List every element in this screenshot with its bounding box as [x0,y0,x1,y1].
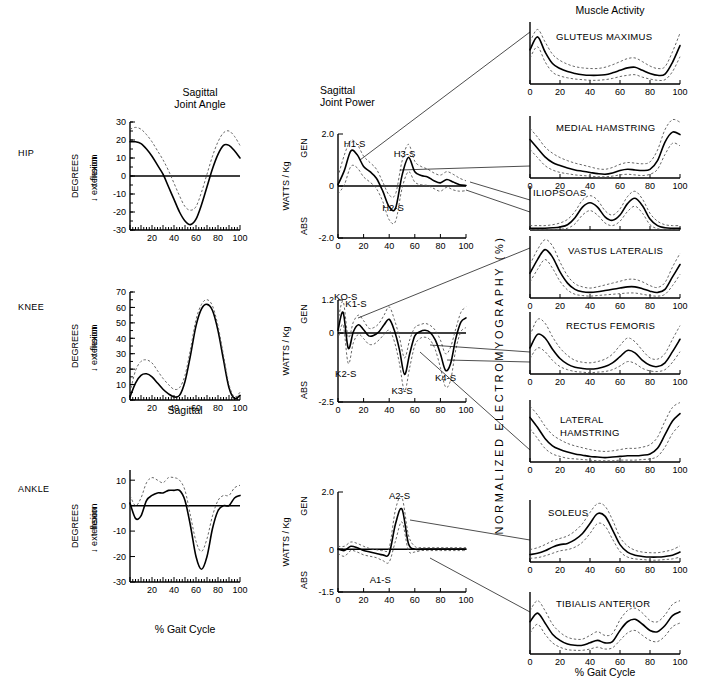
mid-column-title-2: Joint Power [320,96,375,108]
left-x-axis-title: % Gait Cycle [155,623,216,635]
y-tick-label: 30 [116,349,126,359]
event-label-K1-S: K1-S [345,298,366,309]
leader-line [430,345,530,352]
y-tick-label: 0 [121,395,126,405]
x-tick-label: 0 [335,241,340,251]
y-tick-label: 1.2 [321,295,334,305]
plot-emg-vastus-lateralis: 020406080100VASTUS LATERALIS [527,236,687,311]
series-mean [130,490,240,570]
gen-direction-label: GEN [299,138,309,158]
muscle-label: ILIOPSOAS [533,187,586,198]
series-mean [530,250,680,293]
x-tick-label: 80 [435,241,445,251]
series-mean [530,612,680,646]
y-tick-label: 2.0 [321,129,334,139]
series-mean [530,37,680,76]
series-mean [530,334,680,369]
x-tick-label: 100 [672,301,687,311]
plot-ankle-power: 0204060801002.00-1.5A2-SA1-S [318,487,473,605]
series-+1-sd [130,127,240,210]
left-column-title-1: Sagittal [182,86,217,98]
event-label-H1-S: H1-S [344,138,366,149]
x-tick-label: 20 [359,405,369,415]
x-tick-label: 100 [672,465,687,475]
plot-hip-power: 0204060801002.00-2.0H1-SH2-SH3-S [318,129,473,251]
abs-direction-label: ABS [299,217,309,235]
event-label-A2-S: A2-S [389,490,410,501]
x-tick-label: 100 [672,181,687,191]
plot-emg-lateral-hamstring: 020406080100LATERALHAMSTRING [527,400,687,475]
plot-emg-rectus-femoris: 020406080100RECTUS FEMORIS [527,312,687,387]
y-tick-label: 0 [121,501,126,511]
y-tick-label: -2.0 [318,233,334,243]
event-label-K2-S: K2-S [335,368,356,379]
y-tick-label: 2.0 [321,487,334,497]
x-tick-label: 80 [645,181,655,191]
muscle-label: RECTUS FEMORIS [566,320,655,331]
x-tick-label: 0 [527,565,532,575]
y-tick-label: 30 [116,117,126,127]
x-tick-label: 80 [213,233,223,243]
x-tick-label: 40 [384,405,394,415]
x-tick-label: 100 [458,595,473,605]
x-tick-label: 20 [147,585,157,595]
y-tick-label: 0 [329,181,334,191]
y-tick-label: 50 [116,318,126,328]
y-tick-label: 10 [116,153,126,163]
plot-emg-iliopsoas: ILIOPSOAS [530,186,680,230]
right-column-title: Muscle Activity [576,4,646,16]
series-mean [130,304,240,398]
y-tick-label: 0 [329,328,334,338]
x-tick-label: 40 [384,241,394,251]
x-tick-label: 0 [527,87,532,97]
x-tick-label: 40 [585,377,595,387]
leader-line [410,520,530,540]
x-tick-label: 80 [645,465,655,475]
x-tick-label: 20 [147,403,157,413]
y-tick-label: -20 [113,552,126,562]
degrees-axis-title: DEGREES [70,504,80,548]
plot-emg-tibialis-anterior: 020406080100TIBIALIS ANTERIOR [527,592,687,667]
x-tick-label: 100 [232,403,247,413]
abs-direction-label: ABS [299,381,309,399]
figure-canvas: SagittalJoint Angle204060801003020100-10… [0,0,708,695]
muscle-label-line2: HAMSTRING [560,427,620,438]
series-band [338,301,466,358]
x-tick-label: 60 [615,87,625,97]
x-tick-label: 100 [232,585,247,595]
degrees-axis-title: DEGREES [70,324,80,368]
leader-line [470,182,530,200]
series-band-low [338,522,466,563]
x-tick-label: 0 [335,595,340,605]
series--sd [530,623,680,650]
series-mean [530,198,680,228]
muscle-label: VASTUS LATERALIS [568,245,663,256]
plot-ankle-angle: 20406080100100-10-20-30 [113,470,248,595]
y-tick-label: -2.5 [318,397,334,407]
x-tick-label: 80 [645,301,655,311]
event-label-K3-S: K3-S [391,385,412,396]
x-tick-label: 20 [555,657,565,667]
x-tick-label: 0 [527,377,532,387]
x-tick-label: 20 [555,565,565,575]
y-tick-label: -10 [113,189,126,199]
x-tick-label: 80 [645,377,655,387]
x-tick-label: 100 [458,405,473,415]
series-mean [530,513,680,557]
x-tick-label: 60 [615,565,625,575]
x-tick-label: 20 [359,241,369,251]
x-tick-label: 60 [191,233,201,243]
y-tick-label: -30 [113,577,126,587]
x-tick-label: 40 [585,181,595,191]
x-tick-label: 40 [169,585,179,595]
y-tick-label: 10 [116,380,126,390]
x-tick-label: 80 [645,657,655,667]
x-tick-label: 40 [585,565,595,575]
x-tick-label: 60 [410,241,420,251]
series--sd [530,348,680,373]
x-tick-label: 20 [147,233,157,243]
extension-direction-label: ↓ extension [89,507,99,553]
series-+1-sd [130,477,240,551]
x-tick-label: 80 [213,403,223,413]
x-tick-label: 80 [645,87,655,97]
